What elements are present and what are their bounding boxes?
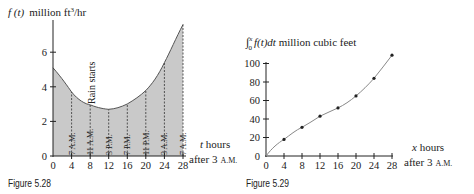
data-point: [372, 77, 375, 80]
x-tick-label: 8: [299, 160, 304, 171]
y-axis-title: ∫x0f(t)dt million cubic feet: [245, 35, 356, 52]
x-tick-label: 4: [69, 160, 75, 171]
figure-5-29-chart: 0 20 40 60 80 100 0 4 8 12 16 20 24 28 ∫…: [244, 35, 452, 171]
marker-label: 11 A.M.: [86, 129, 95, 155]
y-tick-label: 4: [42, 82, 48, 93]
data-point: [390, 54, 393, 57]
data-points: [282, 54, 393, 141]
marker-label: 3 P.M.: [105, 134, 114, 155]
x-tick-label: 0: [50, 160, 55, 171]
x-tick-label: 12: [103, 160, 114, 171]
marker-label: 11 P.M.: [142, 131, 151, 155]
x-axis-title-line2: after 3A.M.: [189, 153, 237, 165]
y-tick-label: 0: [42, 151, 47, 162]
data-point: [282, 138, 285, 141]
figure-5-29-caption: Figure 5.29: [246, 178, 289, 189]
marker-label: 7 A.M.: [179, 133, 188, 155]
x-tick-label: 28: [387, 160, 398, 171]
x-tick-label: 20: [141, 160, 152, 171]
x-axis-title-line2: after 3A.M.: [404, 156, 452, 168]
x-tick-label: 16: [122, 160, 133, 171]
x-tick-label: 0: [263, 160, 268, 171]
y-axis-fn: f (t): [8, 6, 25, 19]
y-tick-label: 100: [244, 58, 260, 69]
x-tick-label: 24: [369, 160, 380, 171]
x-tick-label: 4: [281, 160, 287, 171]
y-tick-label: 0: [255, 151, 260, 162]
x-axis-title-line1: x hours: [411, 141, 444, 153]
figure-5-28-caption: Figure 5.28: [8, 178, 51, 189]
x-tick-label: 8: [88, 160, 93, 171]
marker-label: 7 P.M.: [123, 134, 132, 155]
marker-label: 7 A.M.: [68, 133, 77, 155]
figure-5-28-chart: 0 2 4 6 0 4 8 12 16 20 24 28 7 A.M. 11 A…: [8, 6, 237, 171]
integral-curve: [266, 55, 392, 156]
y-tick-label: 80: [250, 77, 261, 88]
rain-starts-annotation: Rain starts: [86, 61, 97, 104]
y-tick-label: 60: [250, 95, 261, 106]
x-tick-label: 28: [178, 160, 189, 171]
figures-canvas: 0 2 4 6 0 4 8 12 16 20 24 28 7 A.M. 11 A…: [0, 0, 474, 194]
x-tick-label: 20: [351, 160, 362, 171]
x-axis-title-line1: t hours: [200, 138, 230, 150]
data-point: [336, 106, 339, 109]
y-tick-label: 40: [250, 114, 261, 125]
marker-label: 3 A.M.: [160, 133, 169, 155]
y-tick-label: 2: [42, 116, 47, 127]
data-point: [354, 94, 357, 97]
y-tick-label: 6: [42, 47, 47, 58]
x-tick-label: 16: [333, 160, 344, 171]
y-axis-title: f (t)million ft3/hr: [8, 6, 87, 19]
x-tick-label: 24: [159, 160, 170, 171]
data-point: [300, 126, 303, 129]
x-tick-label: 12: [315, 160, 326, 171]
data-point: [318, 115, 321, 118]
y-tick-label: 20: [250, 132, 261, 143]
